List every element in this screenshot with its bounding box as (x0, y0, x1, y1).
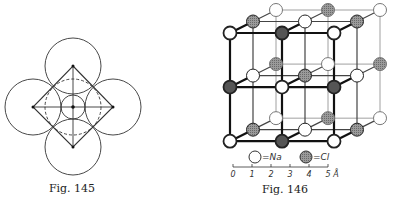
na-ion (270, 4, 283, 17)
fig146-lattice (224, 4, 387, 148)
fig145-caption: Fig. 145 (49, 182, 95, 195)
cl-ion (322, 4, 335, 17)
legend: =Na =Cl (249, 151, 330, 163)
vertex-dot (72, 65, 75, 68)
svg-text:0: 0 (230, 170, 235, 179)
na-ion (328, 135, 341, 148)
na-ion (351, 69, 364, 82)
svg-text:2: 2 (268, 170, 273, 179)
na-ion (247, 69, 260, 82)
vertex-dot (112, 106, 115, 109)
scale-bar (233, 164, 328, 167)
cl-ion (276, 135, 289, 148)
na-ion (374, 112, 387, 125)
na-ion (276, 81, 289, 94)
cl-ion (270, 58, 283, 71)
na-ion (224, 27, 237, 40)
svg-text:5: 5 (325, 170, 330, 179)
cl-legend-icon (300, 151, 312, 163)
na-ion (270, 112, 283, 125)
na-ion (374, 4, 387, 17)
vertex-dot (32, 106, 35, 109)
na-ion (299, 123, 312, 136)
svg-text:3: 3 (287, 170, 292, 179)
cl-ion (224, 81, 237, 94)
cl-ion (351, 15, 364, 28)
na-legend-icon (249, 151, 261, 163)
cl-ion (247, 15, 260, 28)
fig146-caption: Fig. 146 (262, 183, 308, 196)
na-ion (224, 135, 237, 148)
cl-ion (276, 27, 289, 40)
cl-ion (328, 81, 341, 94)
na-legend-label: =Na (262, 152, 282, 162)
svg-text:4: 4 (306, 170, 311, 179)
center-dot (71, 105, 75, 109)
cl-ion (247, 123, 260, 136)
cl-ion (322, 112, 335, 125)
svg-text:1: 1 (249, 170, 254, 179)
cl-ion (374, 58, 387, 71)
cl-ion (351, 123, 364, 136)
na-ion (328, 27, 341, 40)
figure-canvas: Fig. 145 =Na =Cl 0 1 2 3 4 5 Å Fig. 146 (0, 0, 394, 202)
vertex-dot (72, 146, 75, 149)
na-ion (322, 58, 335, 71)
fig145-diagram (5, 38, 141, 175)
scale-labels: 0 1 2 3 4 5 Å (230, 168, 338, 179)
cl-legend-label: =Cl (313, 152, 330, 162)
cl-ion (299, 69, 312, 82)
na-ion (299, 15, 312, 28)
unit-label: Å (332, 168, 338, 179)
